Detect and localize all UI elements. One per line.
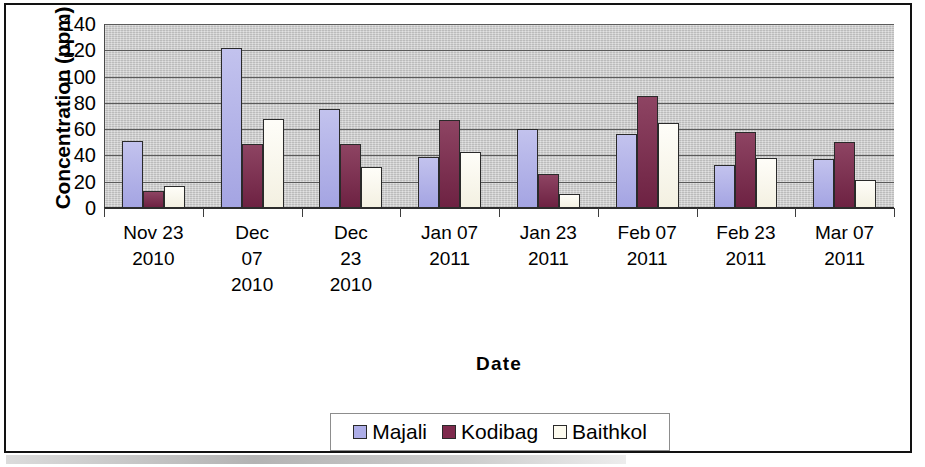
bar-baithkol[interactable] (263, 119, 284, 208)
legend-swatch-icon (553, 425, 567, 439)
bar-groups (104, 24, 894, 208)
x-tick-label-line: 2010 (104, 246, 203, 272)
bar-kodibag[interactable] (834, 142, 855, 208)
legend-swatch-icon (353, 425, 367, 439)
bar-baithkol[interactable] (164, 186, 185, 208)
bar-group (302, 24, 401, 208)
y-tick-label: 140 (50, 14, 96, 34)
bar-baithkol[interactable] (559, 194, 580, 208)
legend-item[interactable]: Majali (353, 420, 427, 444)
x-tick-label-line: 2011 (795, 246, 894, 272)
bar-majali[interactable] (122, 141, 143, 208)
legend-item[interactable]: Kodibag (442, 420, 538, 444)
x-tick-label: Nov 232010 (104, 220, 203, 299)
bar-kodibag[interactable] (143, 191, 164, 208)
x-tick-label: Feb 232011 (697, 220, 796, 299)
x-tick-label-line: Mar 07 (795, 220, 894, 246)
chart-legend: MajaliKodibagBaithkol (330, 413, 670, 451)
bar-group (400, 24, 499, 208)
x-tick-label: Jan 232011 (499, 220, 598, 299)
legend-label: Baithkol (572, 420, 647, 444)
bar-kodibag[interactable] (439, 120, 460, 208)
y-tick-label: 100 (50, 67, 96, 87)
legend-item[interactable]: Baithkol (553, 420, 647, 444)
scan-edge-right (912, 0, 925, 467)
x-tick-label-line: Feb 07 (598, 220, 697, 246)
bar-kodibag[interactable] (340, 144, 361, 208)
x-tick-label-line: 2010 (302, 272, 401, 298)
bar-baithkol[interactable] (756, 158, 777, 208)
x-tick-mark (598, 208, 599, 217)
x-tick-label-line: 2010 (203, 272, 302, 298)
x-tick-label-line: Feb 23 (697, 220, 796, 246)
y-tick-label: 20 (50, 172, 96, 192)
x-tick-label: Mar 072011 (795, 220, 894, 299)
bar-group (203, 24, 302, 208)
bar-kodibag[interactable] (242, 144, 263, 208)
legend-label: Majali (372, 420, 427, 444)
x-axis-ticks (104, 208, 894, 217)
bar-majali[interactable] (616, 134, 637, 208)
bar-majali[interactable] (418, 157, 439, 208)
x-axis-tick-labels: Nov 232010Dec072010Dec232010Jan 072011Ja… (104, 220, 894, 299)
x-tick-label-line: Jan 07 (400, 220, 499, 246)
bar-majali[interactable] (714, 165, 735, 208)
x-tick-label-line: 2011 (400, 246, 499, 272)
x-tick-label: Jan 072011 (400, 220, 499, 299)
x-tick-label-line: Dec (203, 220, 302, 246)
x-tick-label-line: 2011 (499, 246, 598, 272)
bar-group (795, 24, 894, 208)
bar-majali[interactable] (517, 129, 538, 208)
x-tick-mark (302, 208, 303, 217)
x-tick-mark (203, 208, 204, 217)
y-tick-label: 40 (50, 145, 96, 165)
x-axis-title: Date (104, 353, 894, 375)
bar-group (104, 24, 203, 208)
x-tick-label-line: 23 (302, 246, 401, 272)
x-tick-label-line: 2011 (598, 246, 697, 272)
y-tick-label: 80 (50, 93, 96, 113)
bar-baithkol[interactable] (460, 152, 481, 209)
y-tick-label: 120 (50, 40, 96, 60)
x-tick-label-line: Jan 23 (499, 220, 598, 246)
x-tick-label: Dec232010 (302, 220, 401, 299)
scan-artifact (6, 455, 626, 464)
y-tick-label: 60 (50, 119, 96, 139)
chart-page: Concentration (ppm) 140120100806040200 N… (0, 0, 925, 467)
bar-kodibag[interactable] (735, 132, 756, 208)
y-tick-label: 0 (50, 198, 96, 218)
legend-label: Kodibag (461, 420, 538, 444)
bar-group (499, 24, 598, 208)
bar-baithkol[interactable] (658, 123, 679, 208)
bar-baithkol[interactable] (361, 167, 382, 208)
x-tick-label-line: 2011 (697, 246, 796, 272)
legend-swatch-icon (442, 425, 456, 439)
bar-baithkol[interactable] (855, 180, 876, 208)
x-tick-label-line: 07 (203, 246, 302, 272)
x-tick-mark (894, 208, 895, 217)
x-tick-label-line: Nov 23 (104, 220, 203, 246)
x-tick-mark (697, 208, 698, 217)
bar-majali[interactable] (813, 159, 834, 208)
y-axis-tick-labels: 140120100806040200 (40, 24, 96, 208)
x-tick-label: Dec072010 (203, 220, 302, 299)
bar-majali[interactable] (319, 109, 340, 208)
bar-majali[interactable] (221, 48, 242, 208)
x-tick-mark (795, 208, 796, 217)
x-tick-label-line: Dec (302, 220, 401, 246)
bar-group (697, 24, 796, 208)
x-tick-label: Feb 072011 (598, 220, 697, 299)
bar-group (598, 24, 697, 208)
bar-kodibag[interactable] (538, 174, 559, 208)
x-tick-mark (104, 208, 105, 217)
x-tick-mark (400, 208, 401, 217)
bar-kodibag[interactable] (637, 96, 658, 208)
x-tick-mark (499, 208, 500, 217)
